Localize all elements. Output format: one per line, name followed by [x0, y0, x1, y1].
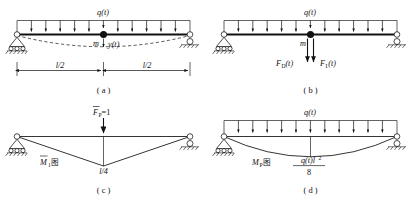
panel-d: q(t) [213, 108, 407, 195]
engineering-figure: q(t) m y(t) [0, 0, 411, 207]
panel-c-caption: ( c ) [97, 186, 111, 195]
panel-a-dimension-line [17, 62, 190, 76]
panel-d-diagram-label: M P 图 [251, 158, 271, 168]
panel-d-fraction-denominator: 8 [307, 168, 311, 177]
panel-b-damping-force-label: F D (t) [275, 59, 293, 69]
panel-b-caption: ( b ) [304, 86, 318, 95]
panel-c-diagram-label-symbol: M [39, 158, 48, 167]
panel-d-load-label: q(t) [304, 108, 316, 117]
panel-b-inertia-force-label: F I (t) [319, 59, 336, 69]
panel-c-left-support [6, 134, 28, 156]
panel-b: q(t) m F D (t) [213, 8, 407, 95]
panel-a-load-arrows [31, 21, 175, 32]
panel-b-mass-label: m [300, 39, 306, 48]
panel-a-mass-point [100, 31, 107, 38]
panel-d-fraction-numerator-exponent: 2 [319, 155, 322, 161]
panel-b-damping-force-arg: (t) [285, 59, 293, 68]
panel-c-diagram-label-cjk: 图 [51, 158, 59, 167]
panel-d-diagram-label-cjk: 图 [263, 158, 271, 167]
panel-c: F P =1 [6, 107, 200, 196]
panel-d-left-support [213, 134, 235, 156]
panel-a-displacement-label: y(t) [107, 40, 120, 49]
panel-b-load-label: q(t) [304, 8, 316, 17]
panel-b-mass-point [307, 31, 314, 38]
panel-a-dim-right-label: l/2 [143, 61, 152, 70]
panel-a-mass-label: m [93, 39, 99, 48]
panel-a-load-label: q(t) [97, 8, 109, 17]
panel-b-inertia-force-subscript: I [325, 63, 327, 69]
panel-d-ordinate-fraction: q(t)l 2 8 [293, 155, 325, 178]
panel-c-unit-load-value: =1 [102, 108, 111, 117]
panel-d-caption: ( d ) [304, 186, 318, 195]
panel-b-load-arrows [238, 21, 382, 32]
panel-c-unit-load-label: F P =1 [92, 107, 110, 119]
panel-a-dim-left-label: l/2 [56, 61, 65, 70]
panel-d-load-arrows [238, 121, 382, 133]
panel-d-fraction-numerator: q(t)l [301, 156, 316, 165]
panel-b-inertia-force-arg: (t) [328, 59, 336, 68]
panel-a: q(t) m y(t) [6, 8, 200, 95]
panel-c-diagram-label: M 1 图 [39, 156, 59, 168]
panel-c-ordinate-label: l/4 [99, 167, 108, 176]
figure-canvas: q(t) m y(t) [0, 0, 411, 207]
panel-a-caption: ( a ) [97, 86, 111, 95]
